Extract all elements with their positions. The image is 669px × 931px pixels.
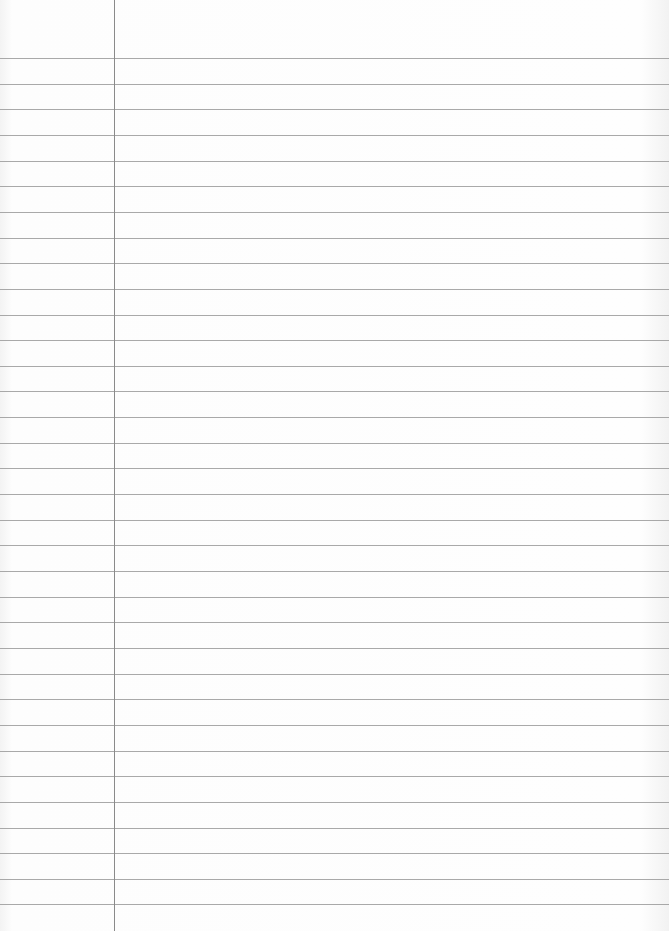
rule-line [0, 674, 669, 675]
rule-line [0, 699, 669, 700]
rule-line [0, 443, 669, 444]
rule-line [0, 315, 669, 316]
rule-line [0, 289, 669, 290]
lined-paper [0, 0, 669, 931]
rule-line [0, 161, 669, 162]
rule-line [0, 340, 669, 341]
rule-line [0, 751, 669, 752]
rule-line [0, 879, 669, 880]
rule-line [0, 135, 669, 136]
rule-line [0, 520, 669, 521]
rule-line [0, 58, 669, 59]
rule-line [0, 597, 669, 598]
rule-line [0, 545, 669, 546]
margin-line [114, 0, 115, 931]
rule-line [0, 391, 669, 392]
rule-line [0, 494, 669, 495]
rule-line [0, 238, 669, 239]
rule-line [0, 366, 669, 367]
rule-line [0, 802, 669, 803]
rule-line [0, 776, 669, 777]
rule-line [0, 648, 669, 649]
rule-line [0, 212, 669, 213]
rule-line [0, 828, 669, 829]
rule-line [0, 263, 669, 264]
rule-line [0, 109, 669, 110]
rule-line [0, 904, 669, 905]
rule-line [0, 84, 669, 85]
rule-line [0, 725, 669, 726]
rule-line [0, 571, 669, 572]
rule-line [0, 853, 669, 854]
rule-line [0, 186, 669, 187]
rule-line [0, 417, 669, 418]
rule-line [0, 622, 669, 623]
rule-line [0, 468, 669, 469]
